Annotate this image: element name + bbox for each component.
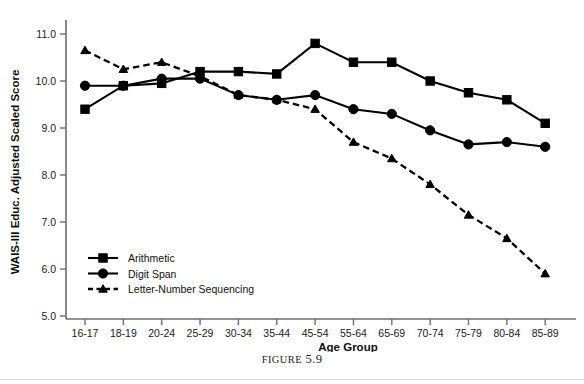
data-point-circle: [541, 142, 550, 151]
x-tick-label: 80-84: [493, 327, 520, 339]
data-point-square: [426, 77, 434, 85]
figure-caption: FIGURE 5.9: [0, 352, 584, 367]
data-point-square: [349, 58, 357, 66]
data-point-square: [541, 119, 549, 127]
data-point-circle: [157, 74, 166, 83]
data-point-square: [273, 70, 281, 78]
y-tick-label: 8.0: [41, 169, 56, 181]
x-tick-label: 16-17: [72, 327, 99, 339]
x-tick-label: 85-89: [532, 327, 559, 339]
x-tick-label: 55-64: [340, 327, 367, 339]
data-point-triangle: [503, 234, 512, 241]
series-arithmetic: [81, 39, 550, 127]
x-axis: 16-1718-1920-2425-2930-3435-4445-5455-64…: [66, 319, 576, 339]
y-tick-label: 7.0: [41, 216, 56, 228]
x-tick-label: 18-19: [110, 327, 137, 339]
y-tick-group: 5.06.07.08.09.010.011.0: [36, 28, 66, 322]
legend-label: Letter-Number Sequencing: [128, 283, 254, 295]
series-layer: [80, 39, 549, 277]
legend-label: Digit Span: [128, 268, 177, 280]
x-tick-label: 25-29: [187, 327, 214, 339]
data-point-circle: [502, 138, 511, 147]
y-axis-label: WAIS-III Educ. Adjusted Scaled Score: [9, 70, 21, 275]
x-tick-group: 16-1718-1920-2425-2930-3435-4445-5455-64…: [72, 319, 559, 339]
figure-container: 5.06.07.08.09.010.011.0 16-1718-1920-242…: [0, 0, 584, 384]
x-tick-label: 35-44: [263, 327, 290, 339]
data-point-circle: [311, 91, 320, 100]
x-tick-label: 75-79: [455, 327, 482, 339]
y-tick-label: 5.0: [41, 310, 56, 322]
y-axis: 5.06.07.08.09.010.011.0: [36, 20, 66, 322]
data-point-triangle: [81, 46, 90, 53]
y-tick-label: 11.0: [36, 28, 56, 40]
figure-caption-prefix: FIGURE: [262, 354, 302, 365]
data-point-triangle: [311, 105, 320, 112]
data-point-triangle: [541, 269, 550, 276]
y-tick-label: 6.0: [41, 263, 56, 275]
x-tick-label: 70-74: [417, 327, 444, 339]
data-point-triangle: [426, 180, 435, 187]
y-tick-label: 10.0: [36, 75, 57, 87]
data-point-square: [503, 96, 511, 104]
data-point-triangle: [464, 211, 473, 218]
legend-label: Arithmetic: [128, 252, 175, 264]
data-point-circle: [119, 81, 128, 90]
data-point-circle: [98, 269, 107, 278]
line-chart: 5.06.07.08.09.010.011.0 16-1718-1920-242…: [0, 0, 584, 352]
legend-item-digit-span: Digit Span: [88, 268, 177, 280]
x-tick-label: 20-24: [148, 327, 175, 339]
data-point-square: [81, 105, 89, 113]
data-point-circle: [349, 105, 358, 114]
data-point-circle: [80, 81, 89, 90]
page-divider: [0, 379, 584, 380]
data-point-square: [464, 89, 472, 97]
data-point-circle: [387, 109, 396, 118]
figure-caption-number: 5.9: [306, 352, 323, 366]
x-tick-label: 65-69: [378, 327, 405, 339]
data-point-square: [234, 67, 242, 75]
chart-legend: ArithmeticDigit SpanLetter-Number Sequen…: [88, 252, 254, 295]
data-point-square: [311, 39, 319, 47]
data-point-triangle: [388, 154, 397, 161]
legend-item-arithmetic: Arithmetic: [88, 252, 175, 264]
x-tick-label: 45-54: [302, 327, 329, 339]
x-tick-label: 30-34: [225, 327, 252, 339]
data-point-square: [388, 58, 396, 66]
data-point-square: [99, 254, 107, 262]
x-axis-label: Age Group: [318, 341, 377, 352]
legend-item-letter-number-sequencing: Letter-Number Sequencing: [88, 283, 254, 295]
data-point-circle: [464, 140, 473, 149]
data-point-circle: [426, 126, 435, 135]
y-tick-label: 9.0: [41, 122, 56, 134]
